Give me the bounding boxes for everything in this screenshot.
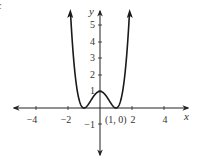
y-tick-label: −1 bbox=[84, 119, 95, 130]
y-tick-label: 5 bbox=[90, 19, 95, 30]
corner-mark: c bbox=[0, 0, 2, 11]
point-annotation: (1, 0) bbox=[105, 114, 127, 126]
x-tick-label: −2 bbox=[61, 114, 72, 125]
function-graph: c −4 −2 2 4 5 4 3 2 1 −1 x y (1, 0) bbox=[0, 0, 197, 160]
x-tick-label: 2 bbox=[131, 114, 136, 125]
y-tick-label: 2 bbox=[90, 69, 95, 80]
x-tick-label: 4 bbox=[163, 114, 168, 125]
x-tick-label: −4 bbox=[27, 114, 38, 125]
y-tick-label: 4 bbox=[90, 36, 95, 47]
y-axis-label: y bbox=[88, 5, 94, 17]
x-axis-label: x bbox=[183, 110, 189, 122]
y-tick-label: 3 bbox=[90, 52, 95, 63]
